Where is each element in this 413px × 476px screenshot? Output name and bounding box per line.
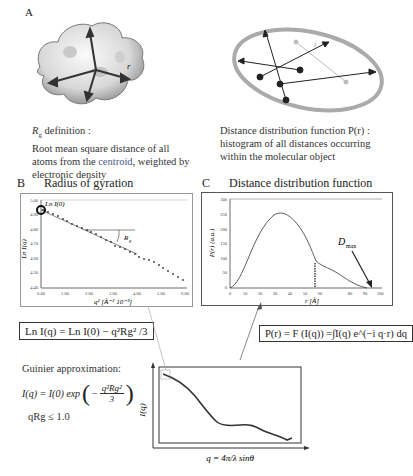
guinier-exp-lhs: I(q) = I(0) exp bbox=[22, 388, 80, 399]
svg-text:Ln I(q): Ln I(q) bbox=[21, 239, 28, 260]
scattering-curve-plot: I(q) q = 4π/λ sinθ bbox=[140, 360, 400, 476]
guinier-linear-formula: Ln I(q) = Ln I(0) − q²Rg² /3 bbox=[19, 322, 154, 340]
rg-caption-line1: Root mean square distance of all bbox=[32, 142, 202, 155]
svg-text:150: 150 bbox=[220, 241, 228, 246]
svg-text:4.70: 4.70 bbox=[30, 241, 39, 246]
svg-text:0.00: 0.00 bbox=[37, 291, 46, 296]
svg-text:1.00: 1.00 bbox=[61, 291, 70, 296]
svg-text:5.00: 5.00 bbox=[30, 198, 39, 203]
guinier-plot-panel: 5.004.904.80 4.704.604.504.40 0.001.002.… bbox=[20, 193, 193, 307]
pr-transform-formula: P(r) = F (I(q)) =∫I(q) e^(−i q·r) dq bbox=[259, 325, 413, 342]
svg-text:q² [Å⁻² 10⁻³]: q² [Å⁻² 10⁻³] bbox=[94, 298, 132, 306]
intensity-axis-label: I(q) bbox=[140, 403, 147, 418]
svg-text:4.60: 4.60 bbox=[30, 256, 39, 261]
panel-b-header: B Radius of gyration bbox=[17, 176, 133, 191]
pr-caption-line2: histogram of all distances occurring bbox=[220, 137, 400, 150]
dmax-subscript: max bbox=[346, 243, 356, 249]
pr-plot: 300250200 150100500 01020 304050 6080901… bbox=[202, 193, 392, 305]
rg-definition-caption: Rg definition : Root mean square distanc… bbox=[32, 124, 202, 181]
svg-text:300: 300 bbox=[220, 197, 228, 202]
svg-text:100: 100 bbox=[377, 291, 385, 296]
svg-text:2.00: 2.00 bbox=[85, 291, 94, 296]
panel-b-title: Radius of gyration bbox=[44, 176, 133, 190]
panel-b-label: B bbox=[17, 176, 25, 190]
svg-text:50: 50 bbox=[223, 270, 228, 275]
intercept-annotation: Ln I(0) bbox=[44, 200, 65, 208]
pr-caption-line1: Distance distribution function P(r) : bbox=[220, 124, 400, 137]
rg-caption-line2b: , weighted by bbox=[133, 156, 190, 167]
pr-plot-panel: 300250200 150100500 01020 304050 6080901… bbox=[201, 192, 393, 306]
protein-surface-illustration: r bbox=[30, 12, 150, 112]
svg-text:20: 20 bbox=[258, 291, 263, 296]
svg-text:250: 250 bbox=[220, 212, 228, 217]
svg-text:4.80: 4.80 bbox=[30, 227, 39, 232]
distance-ellipse-illustration: i bbox=[228, 20, 388, 120]
svg-text:200: 200 bbox=[220, 227, 228, 232]
svg-text:4.00: 4.00 bbox=[133, 291, 142, 296]
guinier-title: Guinier approximation: bbox=[22, 362, 121, 375]
svg-text:40: 40 bbox=[288, 291, 293, 296]
guinier-exp-denominator: 3 bbox=[109, 394, 114, 404]
slope-annotation-sub: g bbox=[129, 238, 132, 243]
panel-c-label: C bbox=[202, 176, 210, 190]
svg-text:60: 60 bbox=[318, 291, 323, 296]
svg-text:r [Å]: r [Å] bbox=[305, 297, 319, 305]
pr-definition-caption: Distance distribution function P(r) : hi… bbox=[220, 124, 400, 163]
svg-text:80: 80 bbox=[348, 291, 353, 296]
svg-text:100: 100 bbox=[220, 256, 228, 261]
svg-text:0: 0 bbox=[225, 285, 228, 290]
guinier-plot: 5.004.904.80 4.704.604.504.40 0.001.002.… bbox=[21, 194, 192, 306]
svg-text:3.00: 3.00 bbox=[109, 291, 118, 296]
svg-text:90: 90 bbox=[363, 291, 368, 296]
guinier-exp-numerator: q²Rg² bbox=[100, 383, 124, 394]
dmax-label: D bbox=[337, 236, 346, 247]
svg-text:5.00: 5.00 bbox=[157, 291, 166, 296]
svg-text:P(r) (a.u.): P(r) (a.u.) bbox=[208, 228, 216, 258]
svg-text:50: 50 bbox=[303, 291, 308, 296]
rg-caption-line2a: atoms from the bbox=[32, 156, 98, 167]
svg-text:10: 10 bbox=[243, 291, 248, 296]
svg-text:6.00: 6.00 bbox=[181, 291, 190, 296]
q-axis-label: q = 4π/λ sinθ bbox=[206, 453, 254, 463]
centroid-term: centroid bbox=[98, 156, 132, 167]
panel-c-header: C Distance distribution function bbox=[202, 176, 372, 191]
svg-text:0: 0 bbox=[229, 291, 232, 296]
radius-label: r bbox=[127, 61, 131, 71]
rg-definition-title: definition : bbox=[42, 125, 91, 136]
guinier-exp-formula: I(q) = I(0) exp ( − q²Rg² 3 ) bbox=[22, 380, 134, 407]
pr-caption-line3: within the molecular object bbox=[220, 150, 400, 163]
svg-text:4.40: 4.40 bbox=[30, 285, 39, 290]
guinier-condition: qRg ≤ 1.0 bbox=[28, 410, 70, 423]
panel-c-title: Distance distribution function bbox=[229, 176, 372, 190]
svg-text:4.50: 4.50 bbox=[30, 270, 39, 275]
svg-text:30: 30 bbox=[273, 291, 278, 296]
